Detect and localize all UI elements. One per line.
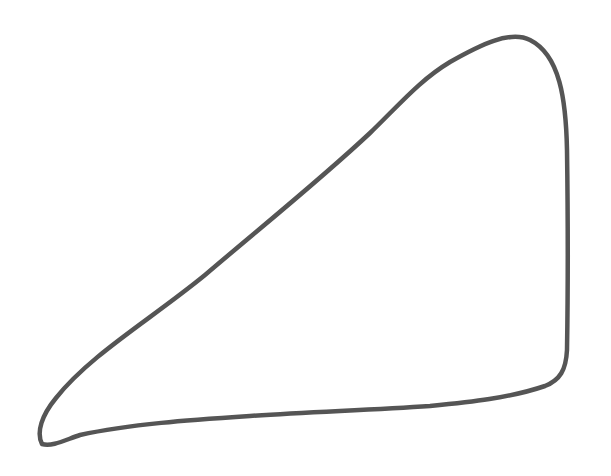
- triangle-outline: [40, 37, 568, 445]
- triangle-sketch: [0, 0, 611, 476]
- drawing-canvas: [0, 0, 611, 476]
